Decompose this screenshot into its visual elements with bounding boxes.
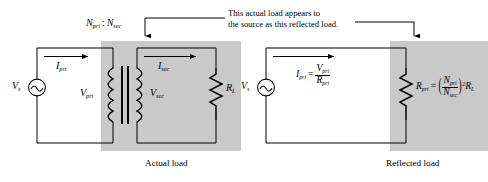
annotation-line-2: the source as this reflected load.: [228, 19, 338, 30]
reflected-load-caption: Reflected load: [386, 158, 439, 168]
turns-pri-sub: pri: [93, 22, 100, 29]
right-ac-source-symbol: [258, 79, 275, 96]
rp-num-sub: pri: [450, 80, 457, 86]
rpri-formula: Rpri=(NpriNsec)2RL: [416, 76, 474, 98]
actual-load-caption: Actual load: [145, 158, 188, 168]
left-source-sub: s: [18, 85, 20, 92]
turns-fraction: NpriNsec: [442, 76, 458, 98]
turns-separator: :: [100, 17, 107, 28]
vsec-sub: sec: [156, 92, 164, 99]
annotation-line-1: This actual load appears to: [228, 8, 338, 19]
annotation-text: This actual load appears to the source a…: [228, 8, 338, 29]
right-source-sub: s: [247, 85, 249, 92]
vpri-label: Vpri: [80, 88, 93, 99]
rp-paren-open: (: [438, 78, 442, 96]
left-ac-source-symbol: [29, 79, 46, 96]
figure-canvas: This actual load appears to the source a…: [0, 0, 488, 182]
rf-den-sub: pri: [322, 79, 329, 85]
rp-equals: =: [429, 82, 438, 92]
load-resistor-label: RL: [226, 83, 236, 94]
ipri-sub: pri: [59, 65, 66, 72]
turns-pri: N: [86, 17, 93, 28]
rf-num-sub: pri: [322, 68, 329, 74]
vpri-sub: pri: [86, 92, 93, 99]
rl-sub: L: [232, 87, 235, 94]
turns-ratio-label: Npri:Nsec: [86, 18, 121, 29]
ipri-formula: Ipri=VpriRpri: [296, 64, 330, 86]
rf-i-sub: pri: [299, 73, 306, 79]
left-ipri-label: Ipri: [56, 61, 67, 72]
isec-sub: sec: [161, 65, 169, 72]
ipri-fraction: VpriRpri: [315, 64, 330, 86]
rp-sub: pri: [422, 85, 429, 91]
rf-equals: =: [306, 70, 315, 80]
vsec-label: Vsec: [150, 88, 164, 99]
turns-sec-sub: sec: [113, 22, 121, 29]
rp-rl-sub: L: [471, 85, 474, 91]
right-source-label: Vs: [241, 81, 250, 92]
leader-line-right: [355, 22, 414, 36]
right-circuit-wires: [266, 48, 406, 143]
left-isec-label: Isec: [158, 61, 169, 72]
rp-den-sub: sec: [450, 91, 458, 97]
left-source-label: Vs: [12, 81, 21, 92]
rp-paren-close: ): [458, 78, 462, 96]
leader-line-left: [145, 18, 225, 36]
